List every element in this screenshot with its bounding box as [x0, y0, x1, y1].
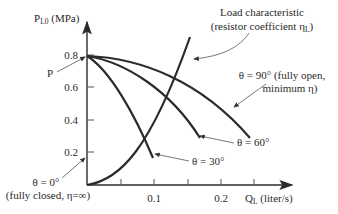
theta-90-label-2: minimum η) [263, 82, 318, 95]
p-label: P [47, 67, 53, 79]
theta-30-arrow [155, 154, 189, 161]
curve-theta-60 [87, 56, 200, 138]
x-axis-label: QL (liter/s) [245, 192, 293, 206]
y-tick-label-0.4: 0.4 [64, 114, 78, 126]
theta-30-label: θ = 30° [192, 155, 224, 167]
theta-60-arrow [200, 136, 234, 143]
theta-0-label-2: (fully closed, η=∞) [6, 189, 91, 202]
y-tick-label-0.8: 0.8 [64, 49, 78, 61]
theta-90-label-1: θ = 90° (fully open, [239, 69, 326, 82]
load-characteristic-arrow [194, 33, 249, 59]
valve-characteristic-diagram: 0.8 0.6 0.4 0.2 0.1 0.2 PL0 (MPa) QL (li… [0, 0, 338, 214]
theta-60-label: θ = 60° [237, 136, 269, 148]
theta-0-arrow [62, 158, 85, 178]
y-ticks [87, 55, 94, 152]
load-characteristic-label-2: (resistor coefficient ηL) [211, 20, 314, 34]
theta-0-label-1: θ = 0° [33, 176, 60, 188]
y-axis-label: PL0 (MPa) [34, 12, 80, 26]
x-tick-label-0.2: 0.2 [214, 192, 228, 204]
y-tick-label-0.6: 0.6 [64, 81, 78, 93]
y-tick-label-0.2: 0.2 [64, 146, 78, 158]
x-ticks [121, 179, 254, 185]
load-characteristic-label-1: Load characteristic [220, 6, 304, 18]
x-tick-label-0.1: 0.1 [147, 192, 161, 204]
theta-90-arrow [234, 84, 266, 107]
curve-theta-90 [87, 56, 250, 138]
